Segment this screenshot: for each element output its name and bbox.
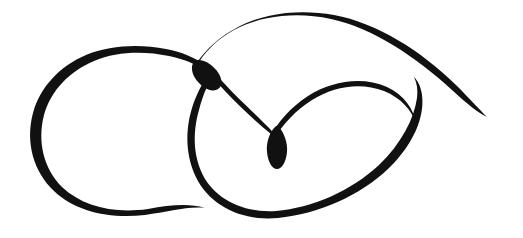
artboard: Calligraphic Flourish Ornament <box>0 0 523 238</box>
calligraphic-flourish-drawing: Calligraphic Flourish Ornament <box>0 0 523 238</box>
